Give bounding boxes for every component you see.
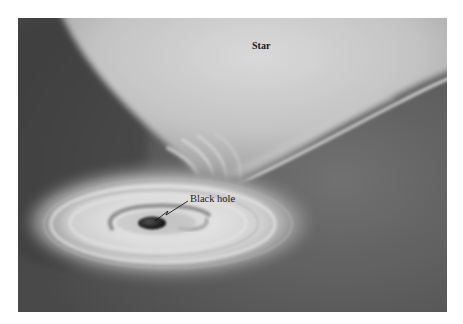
star-label: Star	[252, 40, 270, 51]
illustration-canvas	[18, 18, 447, 312]
black-hole-label: Black hole	[190, 193, 235, 204]
star-black-hole-illustration: Star Black hole	[18, 18, 447, 312]
